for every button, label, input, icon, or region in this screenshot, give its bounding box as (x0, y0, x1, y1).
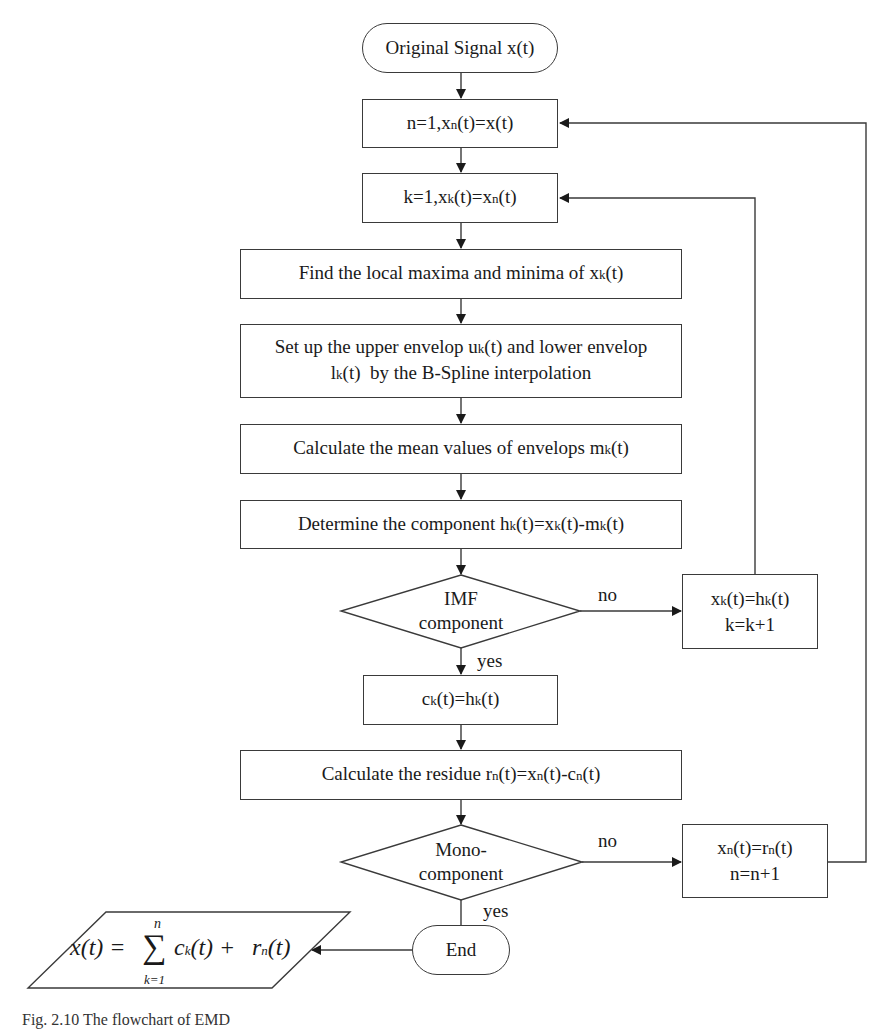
update-n-line2: n=n+1 (730, 862, 780, 886)
mono-decision-line2: component (419, 862, 503, 886)
assign-c-label: ck(t)=hk(t) (422, 687, 500, 713)
component-box: Determine the component hk(t)=xk(t)-mk(t… (240, 500, 682, 549)
init-n-label: n=1,xn(t)=x(t) (407, 111, 514, 137)
formula-lhs: x(t) = (70, 934, 132, 961)
end-terminal: End (412, 925, 510, 975)
imf-decision-line1: IMF (444, 587, 478, 611)
find-extrema-box: Find the local maxima and minima of xk(t… (240, 249, 682, 299)
start-label: Original Signal x(t) (386, 36, 535, 60)
mono-yes-label: yes (483, 900, 508, 922)
end-label: End (446, 938, 477, 962)
residue-box: Calculate the residue rn(t)=xn(t)-cn(t) (240, 750, 682, 800)
mean-label: Calculate the mean values of envelops mk… (293, 436, 629, 462)
output-formula: x(t) = n ∑ k=1 ck(t) + rn(t) (70, 922, 310, 992)
component-label: Determine the component hk(t)=xk(t)-mk(t… (298, 512, 624, 538)
assign-c-box: ck(t)=hk(t) (363, 675, 558, 725)
update-n-box: xn(t)=rn(t) n=n+1 (682, 824, 828, 898)
init-n-box: n=1,xn(t)=x(t) (362, 99, 558, 148)
formula-sum-lower: k=1 (144, 972, 165, 988)
update-k-line2: k=k+1 (725, 613, 775, 637)
formula-term1: ck(t) + (174, 934, 235, 961)
envelopes-box: Set up the upper envelop uk(t) and lower… (240, 324, 682, 398)
formula-term2: rn(t) (252, 934, 291, 961)
mono-decision: Mono- component (381, 837, 541, 887)
mono-decision-line1: Mono- (435, 838, 487, 862)
imf-no-label: no (598, 584, 617, 606)
imf-yes-label: yes (477, 650, 502, 672)
mean-box: Calculate the mean values of envelops mk… (240, 424, 682, 474)
residue-label: Calculate the residue rn(t)=xn(t)-cn(t) (322, 762, 601, 788)
imf-decision-line2: component (419, 611, 503, 635)
envelopes-line1: Set up the upper envelop uk(t) and lower… (275, 335, 648, 361)
update-k-box: xk(t)=hk(t) k=k+1 (682, 574, 818, 649)
update-k-line1: xk(t)=hk(t) (711, 587, 790, 613)
start-terminal: Original Signal x(t) (362, 23, 558, 73)
find-extrema-label: Find the local maxima and minima of xk(t… (299, 261, 624, 287)
envelopes-line2: lk(t) by the B-Spline interpolation (331, 361, 591, 387)
mono-no-label: no (598, 830, 617, 852)
update-n-line1: xn(t)=rn(t) (717, 836, 792, 862)
figure-caption: Fig. 2.10 The flowchart of EMD (22, 1011, 230, 1029)
imf-decision: IMF component (381, 586, 541, 636)
init-k-box: k=1,xk(t)=xn(t) (362, 173, 558, 223)
formula-sum-symbol: ∑ (142, 928, 166, 966)
init-k-label: k=1,xk(t)=xn(t) (403, 185, 516, 211)
